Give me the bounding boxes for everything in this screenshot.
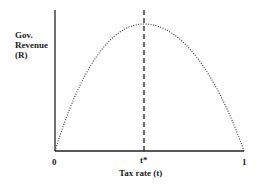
x-tick-0: 0 <box>52 157 57 167</box>
laffer-curve-chart: Gov. Revenue (R) 0 t* 1 Tax rate (t) <box>0 0 259 189</box>
x-tick-1: 1 <box>242 157 247 167</box>
y-axis-label-line-3: (R) <box>15 50 48 60</box>
chart-plot-area <box>0 0 259 189</box>
y-axis-label-line-1: Gov. <box>15 30 48 40</box>
y-axis-label-line-2: Revenue <box>15 40 48 50</box>
revenue-curve <box>55 24 244 151</box>
x-axis-label: Tax rate (t) <box>119 168 162 178</box>
x-tick-t-star: t* <box>140 155 148 165</box>
y-axis-label: Gov. Revenue (R) <box>15 30 48 60</box>
